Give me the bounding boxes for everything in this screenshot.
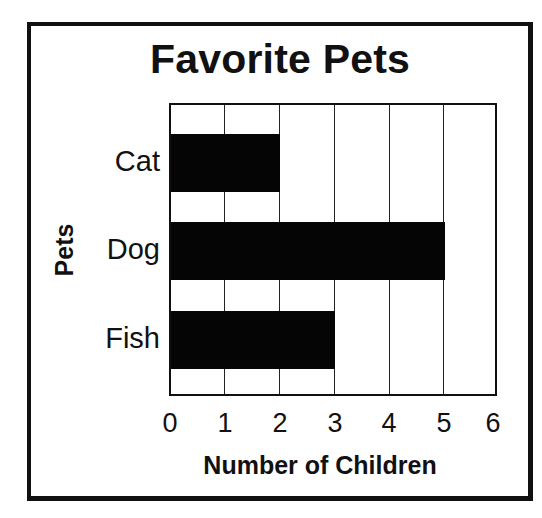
x-tick: 5: [429, 408, 459, 439]
x-tick: 2: [265, 408, 295, 439]
category-label-cat: Cat: [80, 145, 160, 178]
x-tick: 6: [478, 408, 508, 439]
plot-area: [169, 103, 497, 396]
x-tick: 3: [320, 408, 350, 439]
x-tick: 1: [210, 408, 240, 439]
bar-cat: [171, 134, 280, 192]
x-tick: 4: [374, 408, 404, 439]
chart-title: Favorite Pets: [0, 36, 542, 83]
category-label-dog: Dog: [80, 233, 160, 266]
bar-fish: [171, 311, 335, 369]
x-tick: 0: [155, 408, 185, 439]
category-label-fish: Fish: [80, 322, 160, 355]
y-axis-label: Pets: [50, 224, 79, 277]
bar-dog: [171, 222, 445, 280]
x-axis-label: Number of Children: [140, 451, 500, 480]
